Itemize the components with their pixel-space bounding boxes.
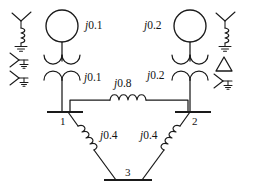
sym-wye-reactor-left-icon xyxy=(12,12,31,51)
line-2-3-reactance-label: j0.4 xyxy=(140,130,158,142)
diagram-canvas xyxy=(0,0,257,194)
xfmr1-reactance-label: j0.1 xyxy=(84,72,102,84)
power-system-one-line-diagram: j0.1 j0.2 j0.1 j0.2 j0.8 j0.4 j0.4 1 2 3 xyxy=(0,0,257,194)
sym-wye-ground-left-2-icon xyxy=(10,71,28,86)
bus-2-label: 2 xyxy=(192,116,198,127)
sym-delta-right-icon xyxy=(216,57,232,71)
xfmr2-reactance-label: j0.2 xyxy=(147,70,165,82)
gen2-reactance-label: j0.2 xyxy=(144,20,162,32)
bus-1-label: 1 xyxy=(60,116,66,127)
sym-wye-ground-left-1-icon xyxy=(10,53,28,68)
sym-wye-ground-right-icon xyxy=(214,74,232,89)
line-2-3 xyxy=(142,112,190,180)
transformer-1 xyxy=(44,55,80,112)
line-1-3 xyxy=(68,112,116,180)
transformer-2 xyxy=(172,55,208,112)
sym-wye-reactor-right-icon xyxy=(216,12,235,51)
generator-1 xyxy=(46,10,78,61)
line-1-2-reactance-label: j0.8 xyxy=(114,78,132,90)
line-1-2 xyxy=(70,95,188,112)
gen1-reactance-label: j0.1 xyxy=(85,20,103,32)
line-1-3-reactance-label: j0.4 xyxy=(100,130,118,142)
generator-2 xyxy=(174,10,206,61)
bus-3-label: 3 xyxy=(125,167,131,178)
